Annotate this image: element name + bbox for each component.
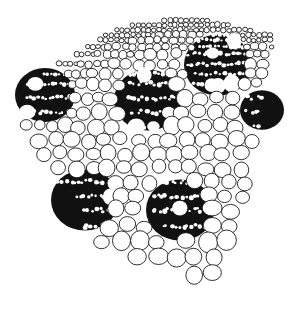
- stem-cross-section-drawing: [0, 0, 292, 322]
- tissue-cells: [15, 17, 284, 284]
